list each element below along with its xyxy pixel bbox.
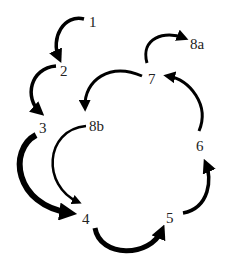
node-8b: 8b (89, 118, 104, 134)
arrow-5-to-6 (183, 164, 209, 213)
node-8a: 8a (190, 36, 205, 52)
cycle-diagram: 1 2 3 8b 4 5 6 7 8a (0, 0, 227, 267)
node-2: 2 (60, 63, 68, 79)
node-6: 6 (196, 138, 204, 154)
node-3: 3 (39, 120, 47, 136)
node-5: 5 (166, 210, 174, 226)
arrow-8b-to-4 (53, 126, 86, 202)
arrow-1-to-2 (56, 18, 84, 58)
node-4: 4 (82, 211, 90, 227)
arrow-7-to-8a (146, 35, 184, 63)
arrow-3-to-4 (20, 135, 70, 213)
node-7: 7 (148, 71, 156, 87)
arrow-4-to-5 (95, 228, 162, 251)
arrow-6-to-7 (168, 76, 202, 131)
node-1: 1 (89, 14, 97, 30)
arrow-2-to-3 (31, 66, 56, 112)
arrow-7-to-8b (85, 71, 142, 107)
